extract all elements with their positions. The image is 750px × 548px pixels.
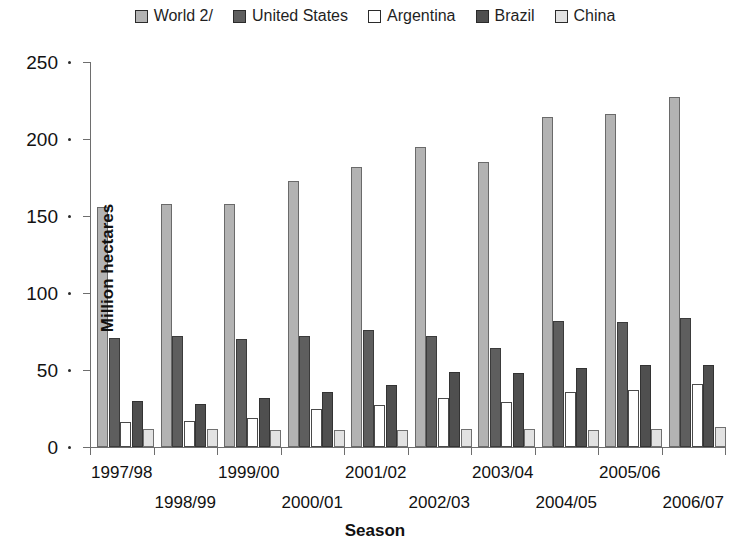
bar-argentina <box>184 421 195 447</box>
y-tick-dot <box>68 61 71 64</box>
bar-us <box>617 322 628 447</box>
x-category-label: 2000/01 <box>267 494 357 511</box>
bar-chart: World 2/United StatesArgentinaBrazilChin… <box>0 0 750 548</box>
bar-group <box>478 62 535 447</box>
bar-us <box>172 336 183 447</box>
bar-brazil <box>322 392 333 447</box>
chart-legend: World 2/United StatesArgentinaBrazilChin… <box>0 8 750 24</box>
y-tick-label: 50 <box>14 361 58 380</box>
y-tick-mark <box>83 447 90 448</box>
bar-group <box>161 62 218 447</box>
bar-china <box>524 429 535 447</box>
legend-label-brazil: Brazil <box>495 8 535 24</box>
bar-group <box>224 62 281 447</box>
x-category-label: 2006/07 <box>648 494 738 511</box>
x-category-label: 1997/98 <box>77 464 167 481</box>
x-category-label: 2001/02 <box>331 464 421 481</box>
y-tick-dot <box>68 446 71 449</box>
x-tick-mark <box>154 448 155 455</box>
bar-brazil <box>703 365 714 447</box>
bar-group <box>415 62 472 447</box>
bar-world <box>224 204 235 447</box>
legend-swatch-brazil-icon <box>476 10 489 23</box>
bar-argentina <box>120 422 131 447</box>
y-tick-mark <box>83 139 90 140</box>
bar-argentina <box>565 392 576 447</box>
x-tick-mark <box>281 448 282 455</box>
y-tick-label: 250 <box>14 53 58 72</box>
legend-entry-world: World 2/ <box>135 8 213 24</box>
bar-us <box>299 336 310 447</box>
x-category-label: 2003/04 <box>458 464 548 481</box>
x-category-label: 2004/05 <box>521 494 611 511</box>
bar-world <box>605 114 616 447</box>
legend-entry-us: United States <box>233 8 348 24</box>
bar-group <box>669 62 726 447</box>
legend-entry-argentina: Argentina <box>368 8 456 24</box>
y-tick-dot <box>68 292 71 295</box>
bar-brazil <box>576 368 587 447</box>
bar-us <box>553 321 564 447</box>
x-category-label: 2005/06 <box>585 464 675 481</box>
x-axis-title: Season <box>0 521 750 541</box>
bar-group <box>288 62 345 447</box>
bar-china <box>461 429 472 447</box>
bar-china <box>588 430 599 447</box>
y-tick-label: 200 <box>14 130 58 149</box>
bar-china <box>270 430 281 447</box>
bar-china <box>715 427 726 447</box>
legend-swatch-us-icon <box>233 10 246 23</box>
legend-label-world: World 2/ <box>154 8 213 24</box>
y-tick-mark <box>83 62 90 63</box>
bar-brazil <box>259 398 270 447</box>
x-tick-mark <box>662 448 663 455</box>
bar-china <box>334 430 345 447</box>
x-tick-mark <box>535 448 536 455</box>
bar-world <box>478 162 489 447</box>
bar-world <box>415 147 426 447</box>
legend-label-china: China <box>574 8 616 24</box>
bar-argentina <box>501 402 512 447</box>
x-tick-mark <box>90 448 91 455</box>
bar-group <box>605 62 662 447</box>
bar-world <box>542 117 553 447</box>
y-axis-title: Million hectares <box>98 158 118 378</box>
x-tick-mark <box>598 448 599 455</box>
bar-argentina <box>692 384 703 447</box>
x-tick-mark <box>725 448 726 455</box>
bar-argentina <box>374 405 385 447</box>
bar-china <box>651 429 662 447</box>
bar-brazil <box>386 385 397 447</box>
bar-china <box>397 430 408 447</box>
legend-entry-china: China <box>555 8 616 24</box>
x-category-label: 1999/00 <box>204 464 294 481</box>
bar-china <box>143 429 154 447</box>
y-tick-dot <box>68 215 71 218</box>
bar-brazil <box>640 365 651 447</box>
x-tick-mark <box>471 448 472 455</box>
bar-world <box>161 204 172 447</box>
x-category-label: 1998/99 <box>140 494 230 511</box>
bar-argentina <box>438 398 449 447</box>
bar-us <box>680 318 691 447</box>
bar-china <box>207 429 218 447</box>
legend-label-us: United States <box>252 8 348 24</box>
bar-us <box>236 339 247 447</box>
x-tick-mark <box>408 448 409 455</box>
bar-argentina <box>628 390 639 447</box>
bar-world <box>288 181 299 447</box>
y-tick-dot <box>68 138 71 141</box>
bar-argentina <box>311 409 322 448</box>
bar-argentina <box>247 418 258 447</box>
legend-swatch-world-icon <box>135 10 148 23</box>
legend-label-argentina: Argentina <box>387 8 456 24</box>
legend-entry-brazil: Brazil <box>476 8 535 24</box>
y-tick-mark <box>83 293 90 294</box>
x-tick-mark <box>217 448 218 455</box>
bar-us <box>363 330 374 447</box>
bar-us <box>490 348 501 447</box>
bar-brazil <box>449 372 460 447</box>
y-tick-mark <box>83 216 90 217</box>
y-tick-label: 150 <box>14 207 58 226</box>
bar-brazil <box>195 404 206 447</box>
